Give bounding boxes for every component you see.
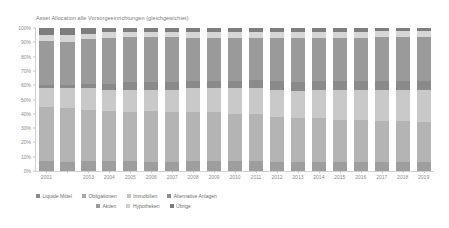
bar-segment <box>39 41 53 85</box>
x-axis-tick-label: 2018 <box>397 174 408 180</box>
x-axis-tick-label: 2009 <box>209 174 220 180</box>
bar-segment <box>81 161 95 171</box>
bar-segment <box>186 112 200 161</box>
bar-segment <box>417 122 431 162</box>
x-axis-tick-label: 2011 <box>251 174 262 180</box>
x-axis-tick-mark <box>235 171 236 173</box>
bar-slot <box>36 28 57 171</box>
bar-segment <box>102 90 116 111</box>
legend-swatch-icon <box>170 204 174 208</box>
x-axis-slot: 2015 <box>329 171 350 185</box>
x-axis-slot: 2010 <box>225 171 246 185</box>
x-axis-tick-label: 2014 <box>313 174 324 180</box>
x-axis-tick-mark <box>151 171 152 173</box>
bar-slot <box>371 28 392 171</box>
x-axis-tick-mark <box>382 171 383 173</box>
stacked-bar[interactable] <box>228 28 242 171</box>
legend-swatch-icon <box>36 194 40 198</box>
stacked-bar[interactable] <box>312 28 326 171</box>
bar-segment <box>207 88 221 112</box>
bar-segment <box>81 88 95 109</box>
bar-segment <box>417 37 431 81</box>
bar-segment <box>333 38 347 81</box>
bar-segment <box>417 162 431 171</box>
x-axis-tick-mark <box>319 171 320 173</box>
bar-segment <box>333 120 347 163</box>
legend-label: Alternative Anlagen <box>174 193 217 199</box>
x-axis-tick-mark <box>46 171 47 173</box>
bar-slot <box>162 28 183 171</box>
legend-label: Liquide Mittel <box>43 193 72 199</box>
legend-item[interactable]: Obligationen <box>82 193 117 199</box>
legend-item[interactable]: Aktien <box>96 203 116 209</box>
bar-segment <box>312 90 326 119</box>
bar-segment <box>207 112 221 161</box>
stacked-bar[interactable] <box>270 28 284 171</box>
bar-segment <box>249 114 263 161</box>
legend-swatch-icon <box>82 194 86 198</box>
legend-label: Obligationen <box>88 193 116 199</box>
chart-legend: Liquide MittelObligationenImmobilienAlte… <box>36 191 276 211</box>
bar-segment <box>102 161 116 171</box>
bar-slot <box>308 28 329 171</box>
legend-item[interactable]: Alternative Anlagen <box>167 193 217 199</box>
x-axis-slot: 2017 <box>371 171 392 185</box>
legend-item[interactable]: Immobilien <box>127 193 158 199</box>
stacked-bar[interactable] <box>375 28 389 171</box>
bar-segment <box>375 81 389 90</box>
bar-segment <box>102 111 116 161</box>
x-axis-tick-mark <box>424 171 425 173</box>
stacked-bar[interactable] <box>354 28 368 171</box>
bar-segment <box>60 35 74 42</box>
bar-segment <box>396 90 410 121</box>
x-axis-slot: 2006 <box>141 171 162 185</box>
stacked-bar[interactable] <box>396 28 410 171</box>
bar-slot <box>99 28 120 171</box>
stacked-bar[interactable] <box>102 28 116 171</box>
y-axis-tick-label: 10% <box>21 154 31 160</box>
chart-screenshot: Asset Allocation alle Vorsorgeeinrichtun… <box>0 0 449 228</box>
legend-item[interactable]: Hypotheken <box>126 203 159 209</box>
stacked-bar[interactable] <box>207 28 221 171</box>
bar-segment <box>375 37 389 81</box>
stacked-bar[interactable] <box>60 28 74 171</box>
y-axis-tick-label: 20% <box>21 139 31 145</box>
bar-segment <box>249 80 263 89</box>
x-axis-tick-mark <box>172 171 173 173</box>
bar-segment <box>228 81 242 88</box>
stacked-bar[interactable] <box>186 28 200 171</box>
bar-segment <box>186 88 200 112</box>
bar-segment <box>312 38 326 81</box>
stacked-bar[interactable] <box>165 28 179 171</box>
stacked-bar[interactable] <box>333 28 347 171</box>
bar-segment <box>186 38 200 81</box>
bar-segment <box>123 90 137 113</box>
x-axis-tick-mark <box>214 171 215 173</box>
stacked-bar[interactable] <box>123 28 137 171</box>
x-axis-slot: 2016 <box>350 171 371 185</box>
stacked-bar[interactable] <box>144 28 158 171</box>
bar-segment <box>396 162 410 171</box>
bar-segment <box>396 37 410 81</box>
y-axis: 0%10%20%30%40%50%60%70%80%90%100% <box>0 28 36 171</box>
bar-segment <box>375 121 389 162</box>
x-axis-tick-label: 2008 <box>188 174 199 180</box>
x-axis-slot: 2008 <box>183 171 204 185</box>
stacked-bar[interactable] <box>81 28 95 171</box>
stacked-bar[interactable] <box>291 28 305 171</box>
stacked-bar[interactable] <box>39 28 53 171</box>
bar-segment <box>123 82 137 89</box>
bar-segment <box>39 28 53 35</box>
bar-segment <box>354 81 368 90</box>
legend-item[interactable]: Liquide Mittel <box>36 193 72 199</box>
x-axis-tick-label: 2016 <box>355 174 366 180</box>
bar-segment <box>270 38 284 81</box>
bar-segment <box>333 162 347 171</box>
x-axis-tick-label: 2019 <box>418 174 429 180</box>
stacked-bar[interactable] <box>249 28 263 171</box>
bar-segment <box>186 161 200 171</box>
legend-item[interactable]: Übrige <box>170 203 191 209</box>
x-axis: 2001200320042005200620072008200920102011… <box>36 171 434 185</box>
stacked-bar[interactable] <box>417 28 431 171</box>
bar-slot <box>204 28 225 171</box>
